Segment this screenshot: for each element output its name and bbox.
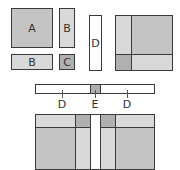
piece-d-label: D (91, 37, 99, 50)
tick-e (95, 90, 96, 98)
rect-a-left (35, 127, 76, 170)
piece-b-vertical-label: B (63, 22, 71, 35)
piece-a-label: A (28, 22, 36, 35)
strip-label-e: E (92, 99, 99, 110)
piece-b-horizontal: B (11, 54, 53, 70)
rect-b-top-left (35, 114, 76, 128)
strip-label-d-left: D (58, 99, 66, 110)
piece-d: D (89, 15, 102, 71)
strip-d-left (35, 84, 91, 94)
tick-d-right (127, 90, 128, 98)
rect-c-left (75, 114, 91, 128)
piece-c-label: C (63, 56, 71, 69)
assembled-square (115, 15, 173, 71)
assembled-square-c (115, 54, 132, 71)
assembled-rectangle (35, 114, 155, 170)
rect-b-top-right (115, 114, 155, 128)
assembled-square-b-top-left (115, 15, 132, 55)
rect-b-left-vertical (75, 127, 91, 170)
assembled-square-a (131, 15, 173, 55)
strip-label-d-right: D (123, 99, 131, 110)
assembled-square-b-bottom (131, 54, 173, 71)
rect-b-right-vertical (100, 127, 116, 170)
tick-d-left (62, 90, 63, 98)
piece-c: C (59, 54, 75, 70)
rect-c-right (100, 114, 116, 128)
piece-b-horizontal-label: B (28, 56, 36, 69)
piece-a: A (11, 8, 53, 48)
rect-a-right (115, 127, 155, 170)
piece-b-vertical: B (59, 8, 75, 48)
diagram-canvas: A B B C D D E D (0, 0, 180, 170)
